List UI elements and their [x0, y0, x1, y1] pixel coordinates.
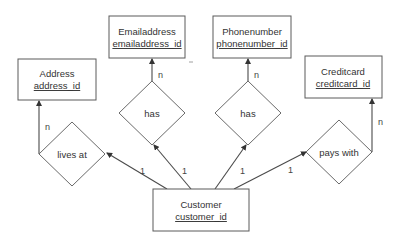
entity-key: customer_id [175, 211, 227, 222]
cardinality-has-email-n: n [158, 70, 163, 80]
entity-key: creditcard_id [316, 78, 370, 89]
cardinality-has-phone-n: n [254, 70, 259, 80]
entity-name: Customer [180, 199, 221, 210]
cardinality-has-phone-1: 1 [240, 166, 245, 176]
cardinality-lives-at-n: n [45, 122, 50, 132]
cardinality-pays-with-n: n [378, 117, 383, 127]
relationship-has-email[interactable]: has [119, 81, 185, 145]
entity-name: Creditcard [321, 66, 365, 77]
cardinality-lives-at-1: 1 [140, 166, 145, 176]
relationship-label: lives at [57, 149, 87, 160]
relationship-has-phone[interactable]: has [215, 81, 281, 145]
entity-customer[interactable]: Customer customer_id [153, 189, 249, 231]
entity-name: Address [40, 68, 75, 79]
cardinality-has-email-1: 1 [182, 166, 187, 176]
edge-customer-lives-at [107, 153, 167, 189]
entity-phonenumber[interactable]: Phonenumber phonenumber_id [213, 16, 291, 58]
er-diagram: Address address_id Emailaddress emailadd… [0, 0, 398, 243]
entity-key: emailaddress_id [112, 38, 181, 49]
entity-name: Emailaddress [118, 26, 176, 37]
cardinality-pays-with-1: 1 [288, 165, 293, 175]
relationship-label: has [240, 108, 256, 119]
entity-key: phonenumber_id [216, 38, 287, 49]
entity-emailaddress[interactable]: Emailaddress emailaddress_id [109, 16, 185, 58]
entity-key: address_id [34, 80, 80, 91]
entity-creditcard[interactable]: Creditcard creditcard_id [305, 56, 382, 98]
relationship-pays-with[interactable]: pays with [306, 120, 372, 184]
relationship-label: has [144, 108, 160, 119]
entity-name: Phonenumber [222, 26, 282, 37]
entity-address[interactable]: Address address_id [18, 59, 96, 100]
relationship-label: pays with [319, 147, 359, 158]
